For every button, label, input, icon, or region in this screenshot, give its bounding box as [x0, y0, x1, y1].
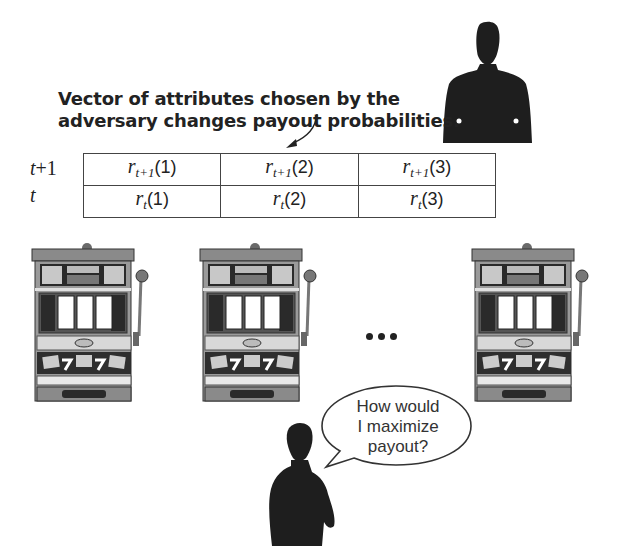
table-cell: rt+1(2)	[221, 154, 358, 186]
table-cell: rt(1)	[84, 186, 221, 218]
table-cell: rt(3)	[358, 186, 495, 218]
speech-bubble-text: How would I maximize payout?	[338, 397, 458, 457]
table-row: rt(1) rt(2) rt(3)	[84, 186, 496, 218]
slot-machine-1-icon	[27, 240, 149, 405]
caption-line-1: Vector of attributes chosen by the	[58, 88, 460, 110]
slot-machine-2-icon	[195, 240, 317, 405]
table-cell: rt+1(1)	[84, 154, 221, 186]
slot-machine-3-icon	[467, 240, 589, 405]
reward-table: rt+1(1) rt+1(2) rt+1(3) rt(1) rt(2) rt(3…	[83, 153, 496, 218]
caption-line-2: adversary changes payout probabilities.	[58, 110, 460, 132]
table-cell: rt+1(3)	[358, 154, 495, 186]
row-label-t-plus-1: t+1	[30, 155, 80, 182]
ellipsis-icon	[366, 326, 402, 344]
pointer-arrow-icon	[280, 112, 330, 154]
caption: Vector of attributes chosen by the adver…	[58, 88, 460, 132]
row-label-t: t	[30, 182, 80, 209]
table-cell: rt(2)	[221, 186, 358, 218]
table-row: rt+1(1) rt+1(2) rt+1(3)	[84, 154, 496, 186]
row-labels: t+1 t	[30, 155, 80, 209]
